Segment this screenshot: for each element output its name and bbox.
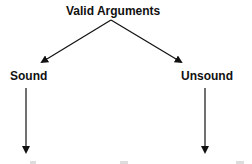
- arrow-root-to-sound: [42, 20, 111, 62]
- diagram-arrows: [0, 0, 252, 164]
- cropped-text-fragment: [236, 161, 244, 164]
- cropped-text-fragment: [120, 161, 128, 164]
- cropped-text-fragment: [30, 161, 36, 164]
- arrow-root-to-unsound: [111, 20, 181, 62]
